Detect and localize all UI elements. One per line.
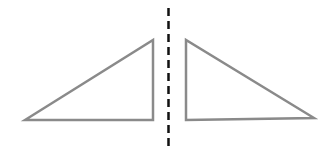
left-triangle xyxy=(25,40,153,120)
right-triangle xyxy=(186,40,314,120)
symmetry-diagram xyxy=(0,0,325,153)
